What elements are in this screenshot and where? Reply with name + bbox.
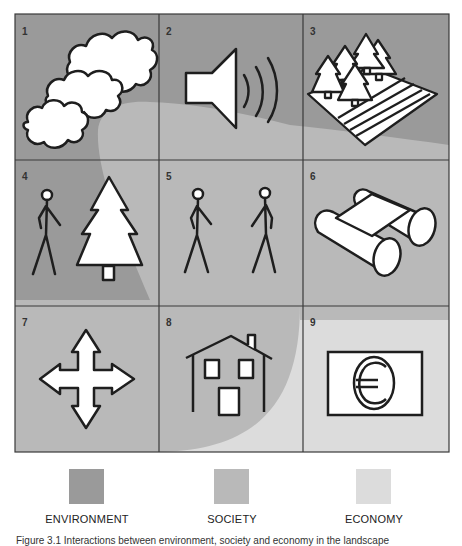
cell-number-4: 4 [22, 171, 28, 182]
figure-caption: Figure 3.1 Interactions between environm… [16, 535, 389, 546]
euro-banknote-icon [328, 352, 422, 415]
cell-number-1: 1 [22, 26, 28, 37]
legend-swatch-environment [69, 469, 104, 504]
cell-number-7: 7 [22, 317, 28, 328]
cell-number-8: 8 [166, 317, 172, 328]
legend-label-economy: ECONOMY [304, 513, 444, 525]
legend-swatch-economy [356, 469, 391, 504]
legend-swatch-society [214, 469, 249, 504]
legend-label-society: SOCIETY [162, 513, 302, 525]
cell-number-9: 9 [310, 317, 316, 328]
legend-label-environment: ENVIRONMENT [17, 513, 157, 525]
cell-number-6: 6 [310, 171, 316, 182]
cell-number-2: 2 [166, 26, 172, 37]
cell-number-5: 5 [166, 171, 172, 182]
cell-number-3: 3 [310, 26, 316, 37]
